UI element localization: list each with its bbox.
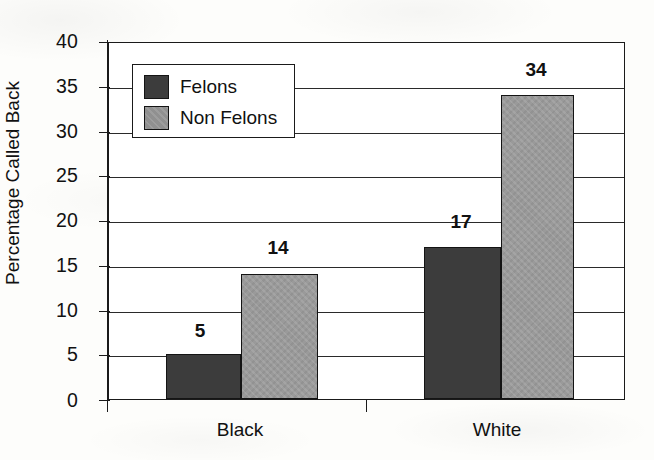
x-tick-label-white: White	[427, 420, 567, 439]
y-tick-label-35: 35	[20, 77, 78, 97]
y-tick-label-15: 15	[20, 256, 78, 276]
y-tick-35	[99, 87, 110, 88]
legend-item-felons: Felons	[144, 71, 294, 102]
legend-label-felons: Felons	[180, 77, 237, 96]
y-tick-40	[99, 42, 110, 43]
legend-swatch-felons	[144, 75, 169, 99]
y-tick-15	[99, 266, 110, 267]
legend: Felons Non Felons	[132, 64, 295, 138]
bar-white-nonfelons	[501, 95, 574, 399]
legend-label-nonfelons: Non Felons	[180, 108, 277, 127]
y-tick-20	[99, 221, 110, 222]
y-tick-10	[99, 311, 110, 312]
bar-black-felons	[166, 354, 241, 399]
legend-item-nonfelons: Non Felons	[144, 102, 294, 133]
y-tick-25	[99, 176, 110, 177]
bar-chart: 40 35 30 25 20 15 10 5 0 Percentage Call…	[0, 0, 654, 460]
y-tick-label-10: 10	[20, 301, 78, 321]
y-tick-label-25: 25	[20, 166, 78, 186]
y-tick-label-0: 0	[20, 391, 78, 411]
legend-swatch-nonfelons	[144, 106, 169, 130]
bar-black-nonfelons	[241, 274, 318, 399]
y-tick-label-30: 30	[20, 122, 78, 142]
value-label-black-felons: 5	[170, 321, 230, 340]
y-tick-label-5: 5	[20, 345, 78, 365]
value-label-black-nonfelons: 14	[248, 238, 308, 257]
y-tick-label-40: 40	[20, 32, 78, 52]
x-tick-label-black: Black	[170, 420, 310, 439]
value-label-white-felons: 17	[431, 212, 491, 231]
y-tick-label-20: 20	[20, 211, 78, 231]
y-tick-0	[99, 400, 110, 401]
y-tick-30	[99, 132, 110, 133]
y-axis-title: Percentage Called Back	[2, 18, 24, 348]
value-label-white-nonfelons: 34	[506, 60, 566, 79]
x-axis-separator-tick	[366, 400, 367, 412]
bar-white-felons	[424, 247, 501, 399]
y-tick-5	[99, 355, 110, 356]
